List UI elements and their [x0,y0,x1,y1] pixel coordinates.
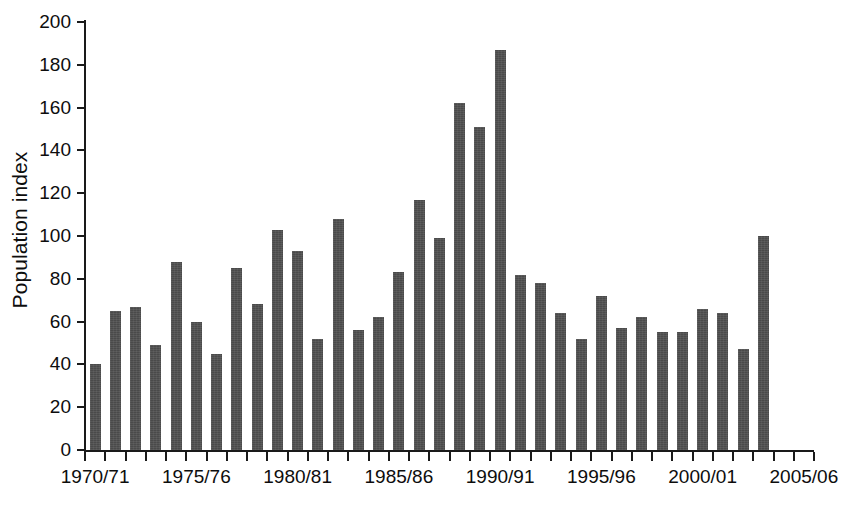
bar [515,275,526,450]
x-axis-tick [428,452,430,461]
bar [373,317,384,450]
bar [717,313,728,450]
x-axis-tick [692,452,694,461]
x-axis-tick [712,452,714,461]
x-axis-tick [388,452,390,461]
bar [353,330,364,450]
x-axis-tick [84,452,86,461]
x-axis-tick [671,452,673,461]
bar [272,230,283,450]
x-axis-tick [631,452,633,461]
x-axis-tick-label: 2000/01 [668,466,737,488]
bar [414,200,425,450]
bar [434,238,445,450]
bar [616,328,627,450]
bars-layer [85,22,814,450]
y-axis-tick [77,64,85,66]
bar-chart: Population index 02040608010012014016018… [0,0,866,513]
y-axis-tick-label: 180 [0,54,71,76]
bar [576,339,587,450]
y-axis-tick-label: 80 [0,268,71,290]
x-axis-tick [206,452,208,461]
x-axis-tick [307,452,309,461]
x-axis-tick [489,452,491,461]
x-axis-tick [104,452,106,461]
x-axis-tick [327,452,329,461]
y-axis-tick [77,235,85,237]
bar [677,332,688,450]
y-axis-tick-label: 100 [0,225,71,247]
x-axis-tick-label: 1985/86 [365,466,434,488]
y-axis-tick-label: 140 [0,139,71,161]
x-axis-tick-label: 1995/96 [567,466,636,488]
bar [474,127,485,450]
bar [758,236,769,450]
y-axis-tick [77,449,85,451]
x-axis-tick [287,452,289,461]
bar [697,309,708,450]
bar [171,262,182,450]
bar [393,272,404,450]
x-axis-tick [651,452,653,461]
bar [738,349,749,450]
x-axis-tick [266,452,268,461]
x-axis-tick-label: 1980/81 [263,466,332,488]
bar [333,219,344,450]
y-axis-tick-label: 160 [0,97,71,119]
y-axis-tick-label: 20 [0,396,71,418]
x-axis-tick [165,452,167,461]
x-axis-tick [570,452,572,461]
y-axis-tick [77,363,85,365]
x-axis-tick [509,452,511,461]
y-axis-tick [77,406,85,408]
y-axis-tick-label: 0 [0,439,71,461]
x-axis-tick [368,452,370,461]
bar [110,311,121,450]
bar [312,339,323,450]
bar [596,296,607,450]
bar [231,268,242,450]
bar [130,307,141,450]
y-axis-tick-label: 120 [0,182,71,204]
x-axis-tick [246,452,248,461]
x-axis-tick [590,452,592,461]
x-axis-tick [469,452,471,461]
bar [292,251,303,450]
x-axis-tick [530,452,532,461]
x-axis-tick [773,452,775,461]
y-axis-tick [77,21,85,23]
y-axis-tick [77,278,85,280]
y-axis-tick-label: 200 [0,11,71,33]
y-axis-tick [77,149,85,151]
bar [252,304,263,450]
x-axis-tick [550,452,552,461]
bar [454,103,465,450]
bar [211,354,222,450]
y-axis-tick-label: 60 [0,311,71,333]
y-axis-tick [77,321,85,323]
x-axis-tick [347,452,349,461]
bar [90,364,101,450]
x-axis-tick [793,452,795,461]
x-axis-tick [408,452,410,461]
bar [495,50,506,450]
x-axis-tick-label: 2005/06 [770,466,839,488]
x-axis-tick [752,452,754,461]
y-axis-tick [77,192,85,194]
x-axis-tick [449,452,451,461]
bar [657,332,668,450]
bar [535,283,546,450]
y-axis-tick-label: 40 [0,353,71,375]
y-axis-tick [77,107,85,109]
x-axis-tick [732,452,734,461]
x-axis-tick [813,452,815,461]
x-axis-tick [611,452,613,461]
bar [636,317,647,450]
bar [191,322,202,450]
bar [150,345,161,450]
x-axis-tick-label: 1990/91 [466,466,535,488]
x-axis-tick [226,452,228,461]
x-axis-tick [145,452,147,461]
x-axis-tick-label: 1970/71 [61,466,130,488]
bar [555,313,566,450]
